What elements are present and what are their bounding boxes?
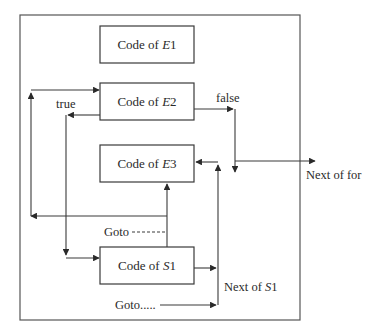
next-of-for-label: Next of for [306,168,362,182]
svg-text:Code of E2: Code of E2 [117,94,176,109]
for-loop-flow-diagram: Code of E1 Code of E2 Code of E3 Code of… [0,0,377,336]
svg-text:Code of E1: Code of E1 [117,37,176,52]
box-code-of-e1: Code of E1 [100,26,194,63]
svg-text:Code of S1: Code of S1 [118,258,176,273]
box-code-of-e2: Code of E2 [100,83,194,120]
next-of-s1-label: Next of S1 [224,280,277,294]
box-code-of-s1: Code of S1 [100,247,194,284]
false-label: false [216,91,240,105]
true-label: true [56,97,76,111]
svg-text:Code of E3: Code of E3 [117,156,176,171]
true-branch-arrow [66,115,100,258]
box-code-of-e3: Code of E3 [100,145,194,182]
goto-label: Goto [104,225,129,239]
goto-dots-label: Goto..... [115,298,156,312]
